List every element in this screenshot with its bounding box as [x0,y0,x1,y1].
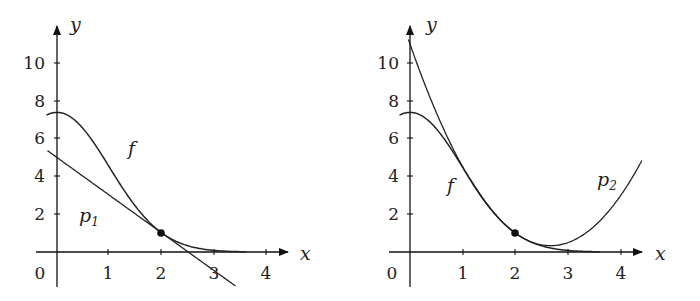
y-tick-4: 4 [388,166,399,186]
y-tick-2: 2 [388,204,399,224]
y-axis-label: y [425,13,437,35]
x-tick-4: 4 [616,263,627,283]
y-tick-6: 6 [34,128,45,148]
label-f: f [126,137,138,159]
figure: 0 1 2 3 4 2 4 6 8 10 x y f p1 0 1 2 3 4 … [0,0,700,301]
label-p2: p2 [597,168,617,193]
curve-p2 [408,40,642,246]
label-p1: p1 [79,204,99,229]
x-tick-3: 3 [563,263,574,283]
x-tick-1: 1 [103,263,114,283]
sub: 1 [91,215,99,229]
curve-f [400,112,600,251]
x-axis-label: x [655,242,666,264]
p: p [79,204,91,226]
y-tick-6: 6 [388,128,399,148]
line-p1 [48,151,236,286]
tangent-point [157,229,165,237]
x-tick-2: 2 [156,263,167,283]
origin-label: 0 [35,263,46,283]
left-plot: 0 1 2 3 4 2 4 6 8 10 x y f p1 [23,13,311,287]
y-tick-2: 2 [34,204,45,224]
p: p [597,168,609,190]
x-tick-2: 2 [510,263,521,283]
y-tick-8: 8 [34,91,45,111]
label-f: f [445,174,457,196]
curve-f [47,112,247,251]
y-tick-8: 8 [388,91,399,111]
origin-label: 0 [387,263,398,283]
x-tick-1: 1 [458,263,469,283]
x-tick-4: 4 [261,263,272,283]
y-tick-10: 10 [377,53,399,73]
sub: 2 [608,179,617,193]
right-plot: 0 1 2 3 4 2 4 6 8 10 x y f p2 [377,13,666,287]
y-tick-4: 4 [34,166,45,186]
y-tick-10: 10 [23,53,45,73]
y-axis-label: y [69,13,81,35]
tangent-point [511,229,519,237]
x-axis-label: x [300,242,311,264]
